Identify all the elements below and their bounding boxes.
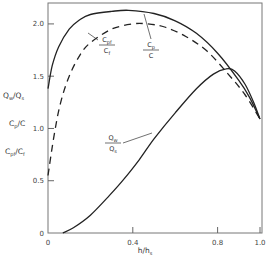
svg-text:Qw: Qw: [108, 134, 117, 143]
annotations: CpfCfCpCQwQs: [88, 14, 159, 154]
y-axis-label-cp-c: Cp/C: [9, 119, 25, 130]
y-axis-label-qw-qs: Qw/Qs: [3, 91, 24, 101]
annotation-qw-qs: QwQs: [105, 134, 121, 154]
x-axis-label: h/hs: [138, 246, 153, 256]
x-tick-label: 1.0: [254, 239, 265, 247]
svg-text:Cpf: Cpf: [102, 36, 112, 46]
svg-text:Cpf/Cf: Cpf/Cf: [5, 147, 25, 158]
svg-text:Qs: Qs: [109, 145, 117, 154]
annotation-cp-c: CpC: [143, 41, 159, 60]
leader-line-cpf-cf: [88, 33, 98, 40]
y-axis-label-cpf-cf: Cpf/Cf: [5, 147, 25, 158]
svg-text:C: C: [149, 52, 154, 60]
series-line-qw-qs: [63, 69, 260, 233]
svg-text:Cp/C: Cp/C: [9, 119, 25, 130]
y-tick-label: 0: [40, 230, 44, 238]
x-tick-label: 0: [46, 239, 50, 247]
svg-text:Cp: Cp: [147, 41, 155, 51]
series-line-cp-c: [48, 10, 260, 119]
svg-text:Cf: Cf: [104, 47, 111, 56]
chart: 00.40.81.0 00.51.01.52.0 CpfCfCpCQwQs Qw…: [0, 0, 267, 257]
leader-line-qw-qs: [123, 133, 152, 143]
svg-text:Qw/Qs: Qw/Qs: [3, 91, 24, 101]
y-tick-label: 1.0: [33, 125, 44, 133]
y-tick-label: 1.5: [33, 73, 44, 81]
annotation-cpf-cf: CpfCf: [99, 36, 115, 56]
y-axis: 00.51.01.52.0: [33, 20, 54, 237]
x-tick-label: 0.8: [212, 239, 223, 247]
leader-line-cp-c: [144, 14, 151, 39]
plot-frame: [48, 3, 262, 233]
y-tick-label: 0.5: [33, 177, 44, 185]
y-tick-label: 2.0: [33, 20, 44, 28]
x-axis: 00.40.81.0: [46, 227, 266, 247]
